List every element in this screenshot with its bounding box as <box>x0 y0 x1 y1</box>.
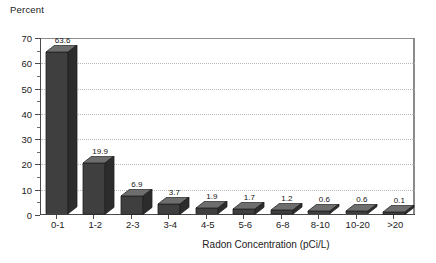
bar-3d-shape <box>195 201 228 215</box>
x-tick-label: >20 <box>387 219 403 230</box>
bar-series: 63.619.96.93.71.91.71.20.60.60.1 <box>40 38 415 215</box>
bar-3d-shape <box>157 197 190 215</box>
bar-value-label: 3.7 <box>169 188 180 197</box>
bar-3d-shape <box>382 205 415 216</box>
bar-value-label: 1.9 <box>206 192 217 201</box>
x-tick-label: 8-10 <box>311 219 330 230</box>
y-tick-label: 0 <box>27 210 32 221</box>
plot-area: 010203040506070 63.619.96.93.71.91.71.20… <box>40 38 415 215</box>
y-tick-label: 20 <box>21 159 32 170</box>
y-tick <box>35 215 40 216</box>
y-axis-title: Percent <box>10 4 44 15</box>
bar-3d-shape <box>345 204 378 215</box>
y-tick-label: 70 <box>21 33 32 44</box>
bar-3d-shape <box>232 202 265 215</box>
x-axis-title-wrap: Radon Concentration (pCi/L) <box>0 239 436 250</box>
y-tick-label: 30 <box>21 134 32 145</box>
x-axis-title: Radon Concentration (pCi/L) <box>202 239 329 250</box>
bar: 0.6 <box>345 206 376 215</box>
bar: 0.1 <box>382 207 413 216</box>
x-tick-label: 10-20 <box>346 219 370 230</box>
bar-value-label: 0.6 <box>319 195 330 204</box>
x-tick-label: 3-4 <box>163 219 177 230</box>
bar-3d-shape <box>120 189 153 215</box>
bar-value-label: 0.6 <box>356 195 367 204</box>
bar: 6.9 <box>120 191 151 215</box>
bar-value-label: 63.6 <box>55 36 71 45</box>
bar-value-label: 6.9 <box>131 180 142 189</box>
x-tick-label: 4-5 <box>201 219 215 230</box>
bar-3d-shape <box>82 156 115 215</box>
y-tick-label: 40 <box>21 108 32 119</box>
bar: 1.7 <box>232 204 263 215</box>
x-tick-label: 1-2 <box>88 219 102 230</box>
bar-value-label: 1.7 <box>244 193 255 202</box>
x-tick-label: 6-8 <box>276 219 290 230</box>
bar-value-label: 19.9 <box>92 147 108 156</box>
x-tick-label: 2-3 <box>126 219 140 230</box>
x-tick-label: 5-6 <box>238 219 252 230</box>
bar-3d-shape <box>270 203 303 215</box>
bar: 0.6 <box>307 206 338 215</box>
bar: 3.7 <box>157 199 188 215</box>
y-tick-label: 10 <box>21 184 32 195</box>
bar-3d-shape <box>307 204 340 215</box>
radon-concentration-bar-chart: Percent 010203040506070 63.619.96.93.71.… <box>0 0 436 263</box>
bar: 1.9 <box>195 203 226 215</box>
x-tick-label: 0-1 <box>51 219 65 230</box>
bar: 1.2 <box>270 205 301 215</box>
y-tick-label: 50 <box>21 83 32 94</box>
bar: 19.9 <box>82 158 113 215</box>
bar-3d-shape <box>45 45 78 215</box>
bar-value-label: 1.2 <box>281 194 292 203</box>
bar-value-label: 0.1 <box>394 196 405 205</box>
bar: 63.6 <box>45 47 76 215</box>
y-tick-label: 60 <box>21 58 32 69</box>
